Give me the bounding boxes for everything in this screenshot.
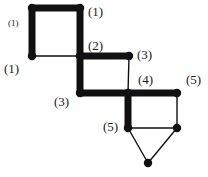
- node-E: [125, 52, 133, 60]
- edge-E-G: [128, 56, 129, 93]
- edge-weight-label: (3): [137, 47, 152, 62]
- edges-group: [32, 8, 177, 163]
- edge-weight-label: (1): [4, 61, 19, 76]
- node-C: [28, 52, 36, 60]
- edge-I-K: [128, 128, 148, 163]
- edge-weight-label: (1): [88, 4, 103, 19]
- edge-weight-label: (5): [103, 119, 118, 134]
- edge-J-K: [148, 128, 177, 163]
- edge-weight-label: (5): [186, 72, 201, 87]
- node-K: [144, 159, 152, 167]
- node-D: [76, 52, 84, 60]
- node-F: [76, 89, 84, 97]
- node-B: [76, 4, 84, 12]
- nodes-group: [28, 4, 181, 167]
- node-H: [173, 89, 181, 97]
- edge-weight-label: (2): [88, 38, 103, 53]
- faint-edge-label: (1): [8, 18, 19, 28]
- edge-weight-label: (4): [138, 72, 153, 87]
- node-J: [173, 124, 181, 132]
- node-I: [124, 124, 132, 132]
- graph-diagram: (1)(1)(2)(3)(3)(4)(5)(5) (1): [0, 0, 208, 177]
- node-G: [124, 89, 132, 97]
- edge-weight-label: (3): [54, 94, 69, 109]
- node-A: [28, 4, 36, 12]
